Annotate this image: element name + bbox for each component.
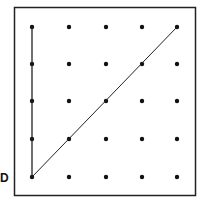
grid-dot [104, 137, 108, 141]
grid-dot [104, 62, 108, 66]
dot-grid-diagram: D [0, 0, 202, 208]
point-label-d: D [0, 171, 9, 185]
grid-dot [140, 137, 144, 141]
grid-dot [175, 137, 179, 141]
grid-dot [104, 175, 108, 179]
grid-dot [67, 62, 71, 66]
grid-dot [140, 99, 144, 103]
grid-dot [175, 62, 179, 66]
diagonal-segment [32, 27, 177, 177]
grid-dot [140, 25, 144, 29]
grid-dot [175, 175, 179, 179]
grid-dot [67, 99, 71, 103]
grid-dot [67, 175, 71, 179]
grid-dot [140, 175, 144, 179]
grid-dot [104, 25, 108, 29]
grid-dot [140, 62, 144, 66]
grid-dot [175, 99, 179, 103]
grid-dot [67, 25, 71, 29]
